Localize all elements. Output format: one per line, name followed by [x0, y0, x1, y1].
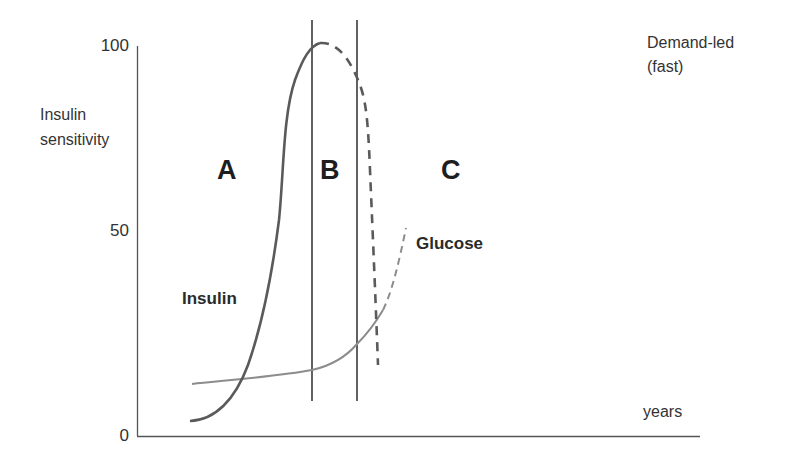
y-tick-50: 50	[89, 222, 129, 239]
x-axis-title: years	[643, 400, 682, 423]
insulin-curve-solid	[190, 43, 320, 421]
insulin-label: Insulin	[182, 290, 237, 307]
demand-led-note-line2: (fast)	[647, 55, 683, 78]
y-axis-title-line1: Insulin	[40, 103, 86, 126]
y-tick-0: 0	[89, 427, 129, 444]
region-label-c: C	[441, 157, 461, 184]
y-tick-100: 100	[89, 37, 129, 54]
glucose-label: Glucose	[416, 235, 483, 252]
y-axis-title-line2: sensitivity	[40, 128, 109, 151]
demand-led-note-line1: Demand-led	[647, 31, 734, 54]
glucose-curve-dashed	[383, 228, 406, 310]
insulin-curve-dashed	[320, 43, 378, 365]
region-label-b: B	[320, 157, 340, 184]
insulin-glucose-diagram: 100 50 0 Insulin sensitivity years A B C…	[0, 0, 798, 461]
glucose-curve-solid	[192, 310, 383, 384]
region-label-a: A	[217, 157, 237, 184]
